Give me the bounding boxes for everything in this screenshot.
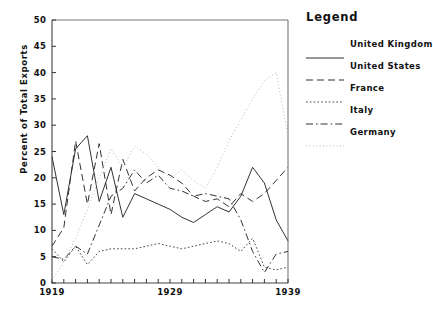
series-line — [52, 73, 288, 281]
legend-item-label: Germany — [350, 127, 396, 137]
legend-swatch — [306, 67, 344, 69]
series-line — [52, 141, 288, 246]
legend-item-label: United Kingdom — [350, 39, 433, 49]
legend-item-label: United States — [350, 61, 421, 71]
legend-swatch — [306, 111, 344, 113]
legend-title: Legend — [306, 10, 358, 24]
legend-swatch — [306, 45, 344, 47]
legend-item-label: Italy — [350, 105, 373, 115]
series-line — [52, 170, 288, 273]
legend-swatch — [306, 89, 344, 91]
legend-swatch — [306, 133, 344, 135]
legend-item-label: France — [350, 83, 384, 93]
